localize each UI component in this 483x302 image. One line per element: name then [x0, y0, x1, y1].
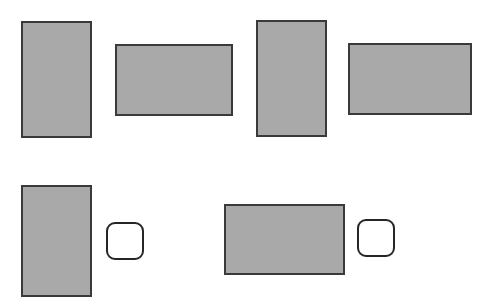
portrait-rectangle-3[interactable] [21, 185, 92, 297]
rounded-square-2[interactable] [357, 219, 395, 257]
rounded-square-1[interactable] [106, 222, 144, 260]
portrait-rectangle-2[interactable] [256, 20, 327, 137]
diagram-canvas [0, 0, 483, 302]
landscape-rectangle-1[interactable] [115, 44, 233, 116]
landscape-rectangle-3[interactable] [224, 204, 345, 275]
landscape-rectangle-2[interactable] [348, 43, 472, 115]
portrait-rectangle-1[interactable] [21, 21, 92, 138]
